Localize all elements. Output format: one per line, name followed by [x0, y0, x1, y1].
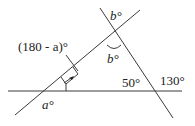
label-a: a° [42, 97, 54, 112]
angle-arc-b [107, 45, 121, 49]
label-130: 130° [160, 73, 185, 88]
rising-diagonal-line [15, 10, 140, 115]
label-inner-b: b° [107, 51, 119, 66]
angle-diagram: (180 - a)° b° b° a° 50° 130° [0, 0, 195, 126]
label-supplementary-angle: (180 - a)° [18, 39, 68, 54]
label-50: 50° [122, 75, 140, 90]
label-top-b: b° [110, 8, 122, 23]
